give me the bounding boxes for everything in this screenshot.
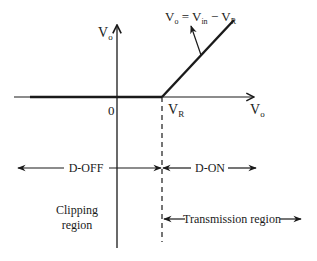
- origin-label: 0: [108, 103, 115, 118]
- horizontal-axis-label: Vo: [250, 102, 265, 119]
- transmission-region-label: Transmission region: [183, 212, 281, 226]
- vertical-axis-label: Vo: [98, 25, 113, 42]
- equation-label: Vo = Vin − VR: [165, 9, 237, 26]
- d-off-label: D-OFF: [69, 161, 104, 175]
- clipper-characteristic-diagram: Vo 0 VR Vo Vo = Vin − VR D-OFF D-ON Clip…: [0, 0, 317, 261]
- vr-label: VR: [168, 102, 184, 119]
- d-on-label: D-ON: [195, 161, 225, 175]
- clipping-region-label-line2: region: [62, 218, 93, 232]
- equation-pointer-arrow: [191, 26, 201, 55]
- characteristic-slope: [162, 20, 234, 97]
- clipping-region-label-line1: Clipping: [56, 203, 98, 217]
